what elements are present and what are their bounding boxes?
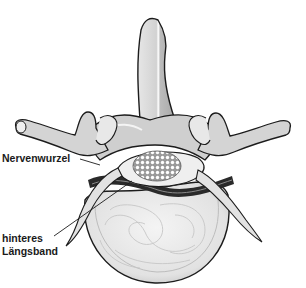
intervertebral-disc xyxy=(84,182,229,283)
label-ligament-line-1: hinteres xyxy=(2,232,58,245)
spinal-cord xyxy=(118,151,204,186)
spinous-process xyxy=(138,18,175,120)
right-transverse-process xyxy=(189,113,290,156)
label-ligament-line-2: Längsband xyxy=(2,245,58,258)
leader-line-nerve-root xyxy=(80,159,100,165)
left-transverse-process xyxy=(16,112,117,156)
label-nerve-root-text: Nervenwurzel xyxy=(2,152,70,164)
label-nerve-root: Nervenwurzel xyxy=(2,152,70,165)
label-posterior-ligament: hinteres Längsband xyxy=(2,232,58,258)
